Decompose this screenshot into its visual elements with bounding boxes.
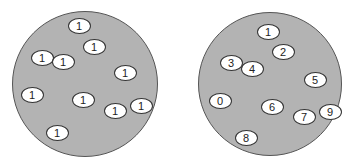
cell-ellipse: 1 (130, 98, 153, 114)
cell-ellipse: 4 (241, 61, 264, 77)
cell-ellipse: 1 (104, 103, 127, 119)
cell-ellipse: 3 (220, 55, 243, 71)
cell-ellipse: 2 (272, 44, 295, 60)
cell-ellipse: 1 (31, 50, 54, 66)
cell-ellipse: 5 (304, 72, 327, 88)
cell-ellipse: 1 (83, 39, 106, 55)
cell-ellipse: 1 (72, 92, 95, 108)
cell-ellipse: 6 (261, 99, 284, 115)
cell-ellipse: 0 (209, 93, 232, 109)
cell-ellipse: 1 (114, 65, 137, 81)
cell-ellipse: 8 (235, 130, 258, 146)
cell-ellipse: 1 (68, 18, 91, 34)
cell-ellipse: 1 (46, 125, 69, 141)
cell-ellipse: 7 (293, 109, 316, 125)
cell-ellipse: 1 (21, 87, 44, 103)
cell-ellipse: 1 (257, 24, 280, 40)
cell-ellipse: 9 (319, 104, 342, 120)
cell-ellipse: 1 (52, 54, 75, 70)
